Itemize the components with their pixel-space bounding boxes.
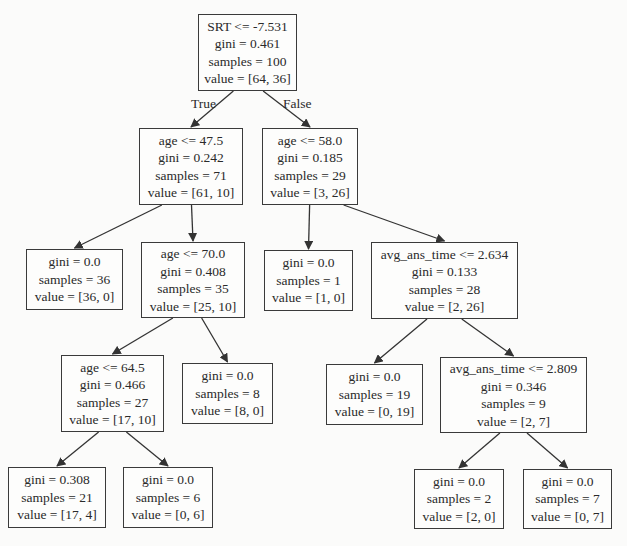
tree-leaf-node: gini = 0.0samples = 19value = [0, 19] (326, 364, 423, 425)
node-class-values: value = [0, 19] (335, 403, 415, 421)
node-sample-count: samples = 1 (276, 272, 341, 290)
tree-split-node: age <= 58.0gini = 0.185samples = 29value… (262, 128, 358, 205)
node-gini-value: gini = 0.346 (481, 378, 547, 396)
tree-edge-arrow (192, 205, 194, 241)
node-class-values: value = [8, 0] (191, 402, 264, 420)
tree-leaf-node: gini = 0.0samples = 1value = [1, 0] (264, 250, 353, 311)
decision-tree-diagram: SRT <= -7.531gini = 0.461samples = 100va… (0, 0, 627, 546)
tree-split-node: avg_ans_time <= 2.809gini = 0.346samples… (440, 357, 587, 433)
node-gini-value: gini = 0.308 (24, 471, 90, 489)
node-sample-count: samples = 28 (409, 281, 480, 299)
tree-leaf-node: gini = 0.308samples = 21value = [17, 4] (8, 467, 106, 528)
node-split-condition: age <= 47.5 (159, 132, 223, 150)
node-gini-value: gini = 0.0 (541, 473, 593, 491)
node-split-condition: age <= 70.0 (161, 245, 225, 263)
tree-edge-arrow (113, 318, 173, 354)
node-class-values: value = [1, 0] (272, 289, 345, 307)
node-gini-value: gini = 0.408 (160, 263, 226, 281)
tree-edge-arrow (57, 432, 99, 466)
node-gini-value: gini = 0.0 (348, 368, 400, 386)
node-class-values: value = [25, 10] (150, 298, 236, 316)
node-sample-count: samples = 21 (21, 489, 92, 507)
node-class-values: value = [17, 4] (17, 506, 97, 524)
node-class-values: value = [2, 7] (477, 413, 550, 431)
node-class-values: value = [36, 0] (35, 288, 115, 306)
node-gini-value: gini = 0.185 (277, 149, 343, 167)
tree-edge-arrow (344, 205, 445, 241)
edge-label-true: True (191, 96, 216, 112)
node-sample-count: samples = 71 (155, 167, 226, 185)
tree-split-node: age <= 47.5gini = 0.242samples = 71value… (139, 128, 243, 205)
node-sample-count: samples = 2 (427, 490, 492, 508)
tree-split-node: avg_ans_time <= 2.634gini = 0.133samples… (371, 242, 518, 319)
tree-edge-arrow (202, 318, 228, 362)
node-gini-value: gini = 0.242 (158, 149, 224, 167)
tree-edge-arrow (126, 432, 168, 466)
node-sample-count: samples = 35 (157, 280, 228, 298)
tree-edge-arrow (459, 433, 500, 468)
node-split-condition: age <= 64.5 (80, 359, 144, 377)
node-sample-count: samples = 6 (136, 489, 201, 507)
node-gini-value: gini = 0.466 (80, 376, 146, 394)
tree-edge-arrow (527, 433, 568, 468)
edge-label-false: False (283, 96, 312, 112)
node-gini-value: gini = 0.0 (433, 473, 485, 491)
node-sample-count: samples = 19 (339, 386, 410, 404)
node-gini-value: gini = 0.461 (215, 35, 281, 53)
node-class-values: value = [2, 0] (423, 508, 496, 526)
node-sample-count: samples = 29 (274, 167, 345, 185)
node-gini-value: gini = 0.0 (201, 367, 253, 385)
tree-leaf-node: gini = 0.0samples = 7value = [0, 7] (523, 469, 612, 529)
node-gini-value: gini = 0.0 (142, 471, 194, 489)
tree-leaf-node: gini = 0.0samples = 36value = [36, 0] (26, 249, 123, 310)
node-sample-count: samples = 9 (481, 395, 546, 413)
node-class-values: value = [61, 10] (148, 184, 234, 202)
node-sample-count: samples = 27 (77, 394, 148, 412)
node-class-values: value = [3, 26] (270, 184, 350, 202)
tree-leaf-node: gini = 0.0samples = 2value = [2, 0] (414, 469, 504, 529)
node-class-values: value = [0, 6] (132, 506, 205, 524)
node-split-condition: age <= 58.0 (278, 132, 342, 150)
node-gini-value: gini = 0.133 (412, 263, 478, 281)
node-split-condition: SRT <= -7.531 (207, 18, 288, 36)
node-class-values: value = [17, 10] (69, 411, 155, 429)
tree-split-node: age <= 64.5gini = 0.466samples = 27value… (61, 355, 164, 432)
node-gini-value: gini = 0.0 (48, 253, 100, 271)
node-split-condition: avg_ans_time <= 2.809 (450, 360, 577, 378)
node-split-condition: avg_ans_time <= 2.634 (381, 246, 508, 264)
node-sample-count: samples = 36 (39, 271, 110, 289)
tree-leaf-node: gini = 0.0samples = 6value = [0, 6] (123, 467, 213, 528)
node-class-values: value = [0, 7] (531, 508, 604, 526)
node-class-values: value = [64, 36] (204, 70, 290, 88)
node-sample-count: samples = 8 (195, 385, 260, 403)
tree-split-node: SRT <= -7.531gini = 0.461samples = 100va… (198, 14, 297, 91)
tree-edge-arrow (462, 319, 514, 356)
node-class-values: value = [2, 26] (405, 298, 485, 316)
tree-split-node: age <= 70.0gini = 0.408samples = 35value… (141, 242, 245, 318)
node-gini-value: gini = 0.0 (282, 254, 334, 272)
tree-leaf-node: gini = 0.0samples = 8value = [8, 0] (182, 363, 273, 424)
node-sample-count: samples = 100 (208, 53, 286, 71)
node-sample-count: samples = 7 (535, 490, 600, 508)
tree-edge-arrow (309, 205, 310, 249)
tree-edge-arrow (375, 319, 428, 363)
